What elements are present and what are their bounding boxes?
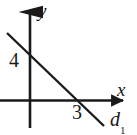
coordinate-axes-figure: y x 4 3 d1 — [0, 0, 137, 135]
x-axis-label: x — [117, 80, 125, 99]
line-name-base: d — [110, 108, 120, 130]
line-name-label: d1 — [110, 109, 126, 133]
line-d1 — [7, 33, 104, 126]
line-name-subscript: 1 — [120, 124, 126, 135]
y-axis-label: y — [38, 1, 46, 20]
x-intercept-label: 3 — [72, 102, 82, 122]
y-intercept-label: 4 — [9, 50, 19, 70]
